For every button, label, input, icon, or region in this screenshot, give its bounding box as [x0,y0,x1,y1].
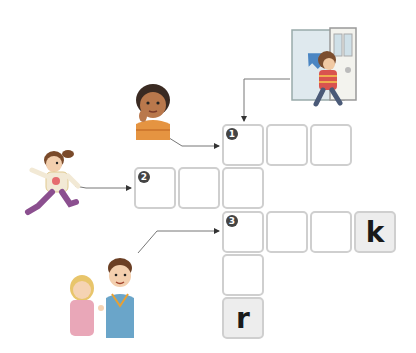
cell-2-across-3[interactable] [222,167,264,209]
talking-kids-illustration [66,248,146,338]
cell-2-across-1[interactable]: 2 [134,167,176,209]
given-letter-r: r [224,302,262,335]
cell-1-across-3[interactable] [310,124,352,166]
clue-number-3: 3 [226,215,238,227]
cell-3-across-1[interactable]: 3 [222,211,264,253]
cell-1-across-2[interactable] [266,124,308,166]
clue-number-2: 2 [138,171,150,183]
thinking-boy-illustration [128,80,178,140]
running-girl-illustration [18,146,84,218]
cell-1-across-1[interactable]: 1 [222,124,264,166]
cell-3-across-3[interactable] [310,211,352,253]
given-letter-k: k [356,216,394,249]
clue-number-1: 1 [226,128,238,140]
cell-down-5-given: r [222,297,264,339]
cell-down-4[interactable] [222,254,264,296]
cell-3-across-4-given: k [354,211,396,253]
cell-3-across-2[interactable] [266,211,308,253]
cell-2-across-2[interactable] [178,167,220,209]
door-boy-illustration [290,26,360,108]
